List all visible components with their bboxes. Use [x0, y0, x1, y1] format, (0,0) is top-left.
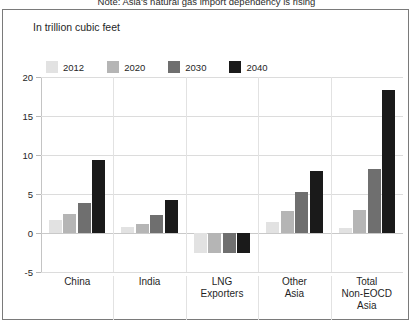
bar-group — [186, 77, 258, 272]
y-axis-tick-label: 15 — [22, 111, 33, 122]
group-separator — [258, 77, 259, 272]
bar-2020[interactable] — [136, 224, 149, 233]
figure-title: Note: Asia's natural gas import dependen… — [0, 0, 413, 8]
legend-label: 2012 — [63, 62, 84, 73]
bar-2040[interactable] — [382, 90, 395, 233]
legend-item-2020[interactable]: 2020 — [107, 61, 145, 73]
legend-item-2030[interactable]: 2030 — [168, 61, 206, 73]
category-label-line: Exporters — [186, 288, 258, 300]
bar-2012[interactable] — [339, 228, 352, 233]
bar-2012[interactable] — [194, 233, 207, 253]
legend-swatch-icon — [168, 61, 180, 73]
legend-label: 2030 — [185, 62, 206, 73]
bar-group — [258, 77, 330, 272]
category-label: China — [41, 276, 113, 288]
y-axis-tick — [36, 272, 41, 273]
y-axis-tick-label: 10 — [22, 150, 33, 161]
chart-figure: Note: Asia's natural gas import dependen… — [0, 0, 413, 324]
bar-2040[interactable] — [237, 233, 250, 253]
category-axis: ChinaIndiaLNGExportersOtherAsiaTotalNon-… — [41, 276, 403, 322]
bar-2040[interactable] — [92, 160, 105, 233]
category-separator — [186, 276, 187, 320]
bar-2012[interactable] — [49, 220, 62, 233]
bar-group — [41, 77, 113, 272]
legend-swatch-icon — [107, 61, 119, 73]
bar-2012[interactable] — [121, 227, 134, 233]
group-separator — [331, 77, 332, 272]
category-label-line: Asia — [331, 300, 403, 312]
bar-2030[interactable] — [223, 233, 236, 253]
category-label: TotalNon-EOCDAsia — [331, 276, 403, 312]
bar-2020[interactable] — [208, 233, 221, 253]
gridline--5 — [41, 272, 403, 273]
category-separator — [113, 276, 114, 320]
y-axis-tick-label: 5 — [28, 189, 33, 200]
plot-area: 20151050-5 — [41, 77, 403, 272]
category-label-line: Non-EOCD — [331, 288, 403, 300]
category-label: OtherAsia — [258, 276, 330, 300]
category-label: India — [113, 276, 185, 288]
group-separator — [113, 77, 114, 272]
legend-swatch-icon — [229, 61, 241, 73]
bar-2020[interactable] — [63, 214, 76, 233]
category-label-line: LNG — [186, 276, 258, 288]
chart-legend: 2012202020302040 — [46, 59, 291, 75]
chart-units-label: In trillion cubic feet — [33, 21, 120, 33]
bar-2020[interactable] — [281, 211, 294, 233]
category-label-line: Other — [258, 276, 330, 288]
legend-swatch-icon — [46, 61, 58, 73]
bar-2030[interactable] — [150, 215, 163, 233]
category-label-line: India — [113, 276, 185, 288]
bar-2030[interactable] — [78, 203, 91, 233]
category-separator — [258, 276, 259, 320]
bar-2012[interactable] — [266, 222, 279, 233]
group-separator — [186, 77, 187, 272]
bar-2020[interactable] — [353, 210, 366, 233]
bar-group — [113, 77, 185, 272]
legend-item-2040[interactable]: 2040 — [229, 61, 267, 73]
category-label-line: Asia — [258, 288, 330, 300]
y-axis-tick-label: -5 — [25, 267, 33, 278]
category-label: LNGExporters — [186, 276, 258, 300]
bar-2030[interactable] — [295, 192, 308, 233]
bar-2030[interactable] — [368, 169, 381, 233]
y-axis-tick-label: 0 — [28, 228, 33, 239]
bar-2040[interactable] — [310, 171, 323, 233]
bar-group — [331, 77, 403, 272]
bar-2040[interactable] — [165, 200, 178, 233]
legend-label: 2040 — [246, 62, 267, 73]
legend-item-2012[interactable]: 2012 — [46, 61, 84, 73]
legend-label: 2020 — [124, 62, 145, 73]
y-axis-tick-label: 20 — [22, 72, 33, 83]
category-separator — [331, 276, 332, 320]
category-label-line: China — [41, 276, 113, 288]
category-label-line: Total — [331, 276, 403, 288]
